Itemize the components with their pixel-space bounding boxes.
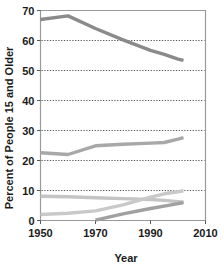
x-tick-label: 1990 [138,227,162,239]
y-axis-title: Percent of People 15 and Older [3,46,15,209]
y-tick-label: 20 [22,155,34,167]
y-tick-label: 40 [22,95,34,107]
y-tick-label: 70 [22,5,34,17]
x-axis-title: Year [114,252,138,264]
y-tick-label: 60 [22,35,34,47]
chart-container: 010203040506070 1950197019902010 Percent… [0,0,224,267]
y-tick-label: 0 [28,215,34,227]
y-tick-label: 30 [22,125,34,137]
x-tick-label: 1950 [28,227,52,239]
y-tick-label: 50 [22,65,34,77]
x-tick-label: 1970 [83,227,107,239]
line-chart: 010203040506070 1950197019902010 Percent… [0,0,224,267]
y-tick-label: 10 [22,185,34,197]
x-tick-label: 2010 [193,227,217,239]
